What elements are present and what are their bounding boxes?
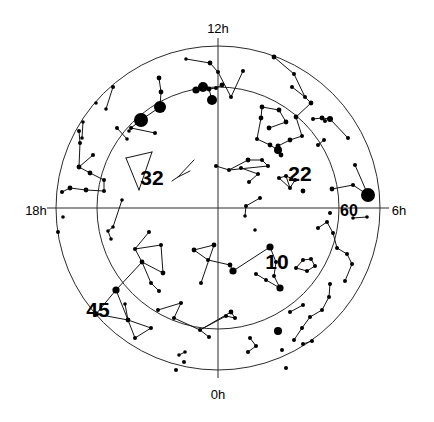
constellation-line <box>178 160 194 177</box>
star-point <box>243 214 247 218</box>
star-point <box>127 129 131 133</box>
star-point <box>255 137 259 141</box>
constellation-line <box>208 260 230 265</box>
star-point <box>248 336 252 340</box>
constellation-line <box>345 264 352 281</box>
star-point <box>288 310 292 314</box>
star-point <box>126 318 131 323</box>
star-point <box>346 136 350 140</box>
star-point <box>149 326 153 330</box>
star-point <box>115 126 119 130</box>
star-point <box>308 315 312 319</box>
star-point <box>208 61 213 66</box>
star-point <box>301 342 305 346</box>
star-point <box>224 314 228 318</box>
star-point <box>56 230 60 234</box>
star-point <box>229 95 233 99</box>
constellation-line <box>246 198 260 206</box>
star-point <box>272 274 276 278</box>
star-point <box>277 108 282 113</box>
star-point <box>313 264 317 268</box>
constellation-line <box>294 328 302 340</box>
constellation-line <box>194 245 214 250</box>
star-point <box>134 113 148 127</box>
star-point <box>325 220 329 224</box>
star-point <box>330 187 335 192</box>
star-point <box>280 348 284 352</box>
star-point <box>227 168 231 172</box>
star-point <box>192 86 199 93</box>
star-point <box>365 215 369 219</box>
star-point <box>177 353 181 357</box>
star-point <box>276 284 283 291</box>
star-point <box>300 134 304 138</box>
star-point <box>68 186 73 191</box>
star-point <box>120 198 124 202</box>
constellation-line <box>296 103 311 117</box>
star-point <box>81 120 85 124</box>
hour-label-left: 18h <box>25 203 47 218</box>
star-point <box>184 57 188 61</box>
star-point <box>133 247 137 251</box>
star-point <box>78 141 82 145</box>
constellation-line <box>128 320 151 328</box>
star-point <box>350 262 354 266</box>
constellation-line <box>332 185 353 189</box>
star-point <box>253 228 257 232</box>
star-point <box>328 211 332 215</box>
star-point <box>316 226 320 230</box>
region-45-label: 45 <box>86 298 110 321</box>
star-point <box>254 272 258 276</box>
star-point <box>112 286 119 293</box>
star-point <box>104 107 108 111</box>
star-point <box>361 188 375 202</box>
star-point <box>272 55 277 60</box>
star-point <box>247 180 251 184</box>
star-point <box>284 120 289 125</box>
star-point <box>159 90 164 95</box>
star-point <box>310 339 314 343</box>
star-point <box>216 70 220 74</box>
star-point <box>301 303 305 307</box>
star-point <box>335 246 339 250</box>
star-point <box>320 308 324 312</box>
star-points <box>56 55 375 372</box>
star-point <box>322 138 326 142</box>
constellation-line <box>158 303 181 310</box>
constellation-line <box>82 122 83 138</box>
star-point <box>220 83 225 88</box>
star-point <box>149 281 153 285</box>
star-point <box>157 289 161 293</box>
star-point <box>140 260 145 265</box>
constellation-line <box>79 155 93 167</box>
constellation-line <box>126 152 152 158</box>
star-point <box>192 248 197 253</box>
star-point <box>268 143 273 148</box>
star-point <box>60 190 64 194</box>
constellation-line <box>257 118 261 139</box>
constellation-line <box>131 128 155 133</box>
constellation-line <box>142 262 163 273</box>
star-point <box>331 231 335 235</box>
constellation-line <box>269 122 286 128</box>
star-point <box>311 117 315 121</box>
hour-label-right: 6h <box>392 203 406 218</box>
star-point <box>353 163 357 167</box>
star-point <box>88 171 93 176</box>
constellation-line <box>125 304 128 320</box>
constellation-line <box>161 245 163 273</box>
constellation-line <box>116 262 142 290</box>
star-point <box>123 302 127 306</box>
star-point <box>161 271 166 276</box>
star-point <box>305 269 309 273</box>
star-point <box>292 338 296 342</box>
star-point <box>109 237 113 241</box>
region-labels: 3222601045 <box>86 162 358 321</box>
region-32-label: 32 <box>140 166 163 189</box>
star-point <box>172 316 176 320</box>
star-point <box>228 263 233 268</box>
star-point <box>327 295 331 299</box>
region-22-label: 22 <box>288 162 311 185</box>
star-point <box>323 119 327 123</box>
constellation-line <box>86 190 104 191</box>
